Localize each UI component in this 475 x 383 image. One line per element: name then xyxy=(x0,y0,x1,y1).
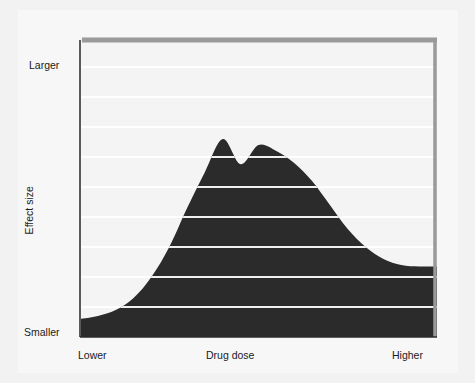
y-axis-top-label: Larger xyxy=(29,60,59,71)
x-axis-title: Drug dose xyxy=(206,350,254,361)
figure-background: Larger Smaller Effect size Lower Drug do… xyxy=(0,0,475,383)
x-axis-right-label: Higher xyxy=(392,350,423,361)
x-axis-left-label: Lower xyxy=(78,350,107,361)
y-axis-bottom-label: Smaller xyxy=(24,327,60,338)
chart-plot-wrapper: Larger Smaller Effect size Lower Drug do… xyxy=(0,0,475,383)
dose-response-chart xyxy=(0,0,475,383)
y-axis-title: Effect size xyxy=(24,175,35,245)
